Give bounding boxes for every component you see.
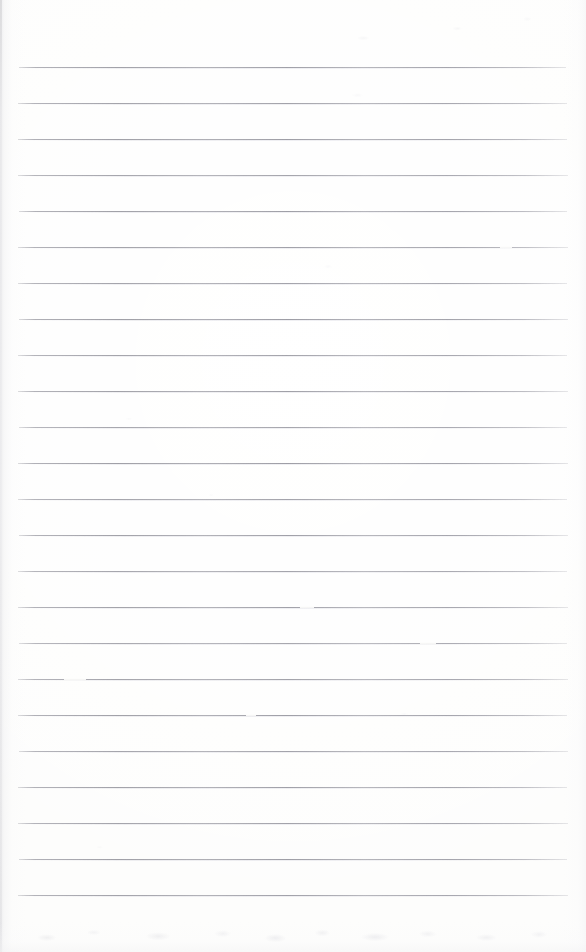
paper-background (0, 0, 586, 952)
scanned-page (0, 0, 586, 952)
